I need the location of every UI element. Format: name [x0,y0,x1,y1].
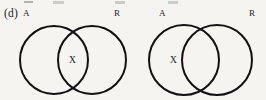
figure-container: (d) A R X A R X [0,0,266,100]
right-venn-circle-r [182,25,252,95]
right-venn-diagram [0,0,266,100]
right-venn-marker-x: X [170,56,177,66]
right-venn-circle-a [149,25,219,95]
